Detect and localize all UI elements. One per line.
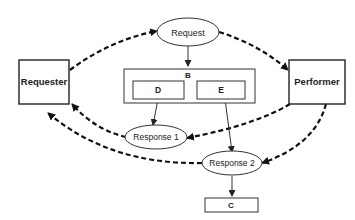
b-label: B — [185, 71, 191, 80]
node-c: C — [205, 198, 258, 212]
d-label: D — [155, 85, 161, 95]
node-response1: Response 1 — [125, 125, 187, 149]
node-d: D — [133, 81, 184, 99]
edge-request-to-performer — [219, 32, 288, 70]
edge-response1-to-requester — [72, 104, 126, 137]
edge-e-to-response2 — [225, 99, 232, 152]
edge-requester-to-request — [70, 31, 157, 70]
node-requester: Requester — [19, 60, 69, 104]
diagram-canvas: Requester Performer Request B D E Respon… — [0, 0, 355, 220]
node-response2: Response 2 — [202, 151, 262, 175]
c-label: C — [228, 201, 234, 210]
response2-label: Response 2 — [209, 158, 255, 168]
e-label: E — [218, 85, 224, 95]
edge-performer-to-response1 — [187, 104, 290, 138]
node-performer: Performer — [289, 60, 345, 104]
performer-label: Performer — [294, 76, 340, 87]
node-request: Request — [157, 18, 219, 46]
request-label: Request — [171, 28, 205, 38]
node-e: E — [197, 81, 245, 99]
requester-label: Requester — [21, 76, 68, 87]
response1-label: Response 1 — [133, 132, 179, 142]
